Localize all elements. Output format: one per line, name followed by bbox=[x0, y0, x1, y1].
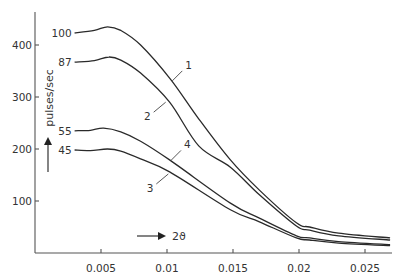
ticks: 1002003004000.0050.010.0150.020.025 bbox=[12, 39, 380, 274]
x-tick-label: 0.01 bbox=[155, 262, 178, 274]
curve-number-label: 3 bbox=[147, 182, 154, 194]
leader-line bbox=[172, 71, 182, 81]
curve-start-label: 55 bbox=[58, 125, 71, 137]
x-axis-label: 2ϑ bbox=[172, 230, 186, 243]
x-tick-label: 0.015 bbox=[218, 262, 248, 274]
leader-line bbox=[156, 174, 168, 184]
curve-start-label: 100 bbox=[52, 27, 72, 39]
curve-number-label: 1 bbox=[185, 59, 192, 71]
leader-line bbox=[171, 150, 181, 160]
y-tick-label: 400 bbox=[12, 39, 32, 51]
chart: 1002003004000.0050.010.0150.020.025 1008… bbox=[0, 0, 401, 277]
x-tick-label: 0.02 bbox=[287, 262, 310, 274]
curve-3 bbox=[75, 149, 391, 246]
leader-line bbox=[154, 102, 166, 112]
y-tick-label: 300 bbox=[12, 91, 32, 103]
curve-number-label: 4 bbox=[184, 138, 191, 150]
curve-4 bbox=[75, 128, 391, 245]
curves bbox=[75, 27, 391, 246]
curve-2 bbox=[75, 57, 391, 240]
curve-start-label: 45 bbox=[58, 144, 71, 156]
x-tick-label: 0.005 bbox=[86, 262, 116, 274]
x-arrow-icon bbox=[137, 232, 166, 240]
axes bbox=[35, 12, 392, 253]
y-arrow-icon bbox=[44, 137, 52, 172]
curve-start-label: 87 bbox=[58, 56, 71, 68]
curve-labels: 1008755451243 bbox=[52, 27, 192, 194]
x-tick-label: 0.025 bbox=[350, 262, 380, 274]
y-axis-label: pulses/sec bbox=[43, 69, 56, 127]
y-tick-label: 200 bbox=[12, 143, 32, 155]
y-tick-label: 100 bbox=[12, 195, 32, 207]
curve-number-label: 2 bbox=[144, 110, 151, 122]
